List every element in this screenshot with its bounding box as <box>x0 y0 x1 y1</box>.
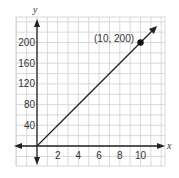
x-tick-label: 6 <box>96 150 102 161</box>
y-tick-label: 40 <box>24 120 36 131</box>
y-axis-arrow-down-icon <box>34 157 40 165</box>
y-tick-label: 80 <box>24 99 36 110</box>
y-tick-label: 120 <box>18 78 35 89</box>
line-chart: 2468104080120160200 x y (10, 200) <box>0 0 179 178</box>
y-tick-label: 160 <box>18 58 35 69</box>
x-tick-label: 2 <box>55 150 61 161</box>
point-label: (10, 200) <box>94 33 134 44</box>
series-line <box>37 30 153 146</box>
y-tick-label: 200 <box>18 37 35 48</box>
y-axis-label: y <box>32 4 38 15</box>
x-axis-arrow-left-icon <box>14 143 22 149</box>
x-axis-label: x <box>166 140 172 151</box>
grid <box>16 17 165 166</box>
data-point <box>137 39 143 45</box>
y-axis-arrow-up-icon <box>34 19 40 27</box>
x-tick-label: 4 <box>76 150 82 161</box>
x-tick-label: 8 <box>117 150 123 161</box>
x-tick-label: 10 <box>135 150 147 161</box>
